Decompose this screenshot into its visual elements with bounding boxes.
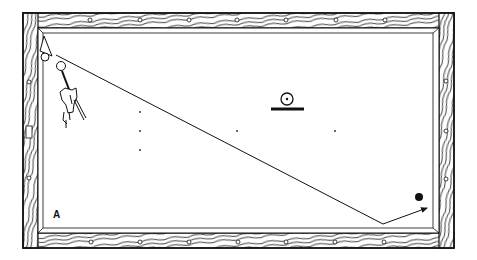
rail-diamond-bottom — [382, 240, 386, 244]
rail-diamond-bottom — [89, 240, 93, 244]
rail-diamond-bottom — [236, 240, 240, 244]
left-rail-marker — [26, 126, 32, 138]
table-spot — [236, 130, 238, 132]
rail-diamond-right — [444, 177, 448, 181]
table-drawing — [0, 0, 477, 260]
corner-ball — [41, 53, 49, 61]
rail-diamond-bottom — [187, 240, 191, 244]
rail-diamond-top — [284, 18, 288, 22]
rail-diamond-right — [444, 129, 448, 133]
table-spot — [139, 149, 141, 151]
billiards-diagram: A — [0, 0, 477, 260]
table-spot — [334, 130, 336, 132]
rail-diamond-top — [88, 18, 92, 22]
rail-diamond-top — [187, 18, 191, 22]
cue-ball — [57, 62, 66, 71]
object-ball-black — [415, 193, 423, 201]
rail-diamond-bottom — [284, 240, 288, 244]
table-spot — [139, 130, 141, 132]
rail-diamond-top — [334, 18, 338, 22]
table-spot — [139, 111, 141, 113]
rail-diamond-left — [27, 80, 31, 84]
rail-diamond-bottom — [333, 240, 337, 244]
rail-diamond-right — [444, 79, 448, 83]
rail-diamond-left — [27, 176, 31, 180]
rail-diamond-bottom — [138, 240, 142, 244]
rail-diamond-top — [383, 18, 387, 22]
corner-label: A — [53, 209, 60, 220]
playing-surface — [38, 28, 439, 233]
rail-diamond-top — [235, 18, 239, 22]
rail-diamond-top — [138, 18, 142, 22]
